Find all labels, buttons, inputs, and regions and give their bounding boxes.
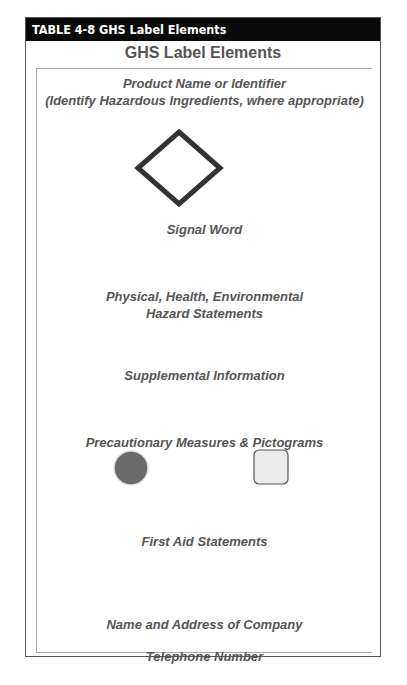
hazard-statements-line1: Physical, Health, Environmental bbox=[37, 288, 372, 305]
precaution-square-icon bbox=[251, 447, 291, 487]
supplemental-info: Supplemental Information bbox=[37, 367, 372, 384]
label-panel: Product Name or Identifier (Identify Haz… bbox=[36, 68, 372, 653]
hazard-statements-line2: Hazard Statements bbox=[37, 305, 372, 322]
company-name-address: Name and Address of Company bbox=[37, 616, 372, 633]
table-frame: TABLE 4-8 GHS Label Elements GHS Label E… bbox=[25, 17, 381, 657]
product-note: (Identify Hazardous Ingredients, where a… bbox=[37, 92, 372, 109]
product-name: Product Name or Identifier bbox=[37, 75, 372, 92]
hazard-diamond-icon bbox=[133, 128, 225, 208]
precautionary-measures: Precautionary Measures & Pictograms bbox=[37, 434, 372, 451]
page-title: GHS Label Elements bbox=[26, 44, 380, 62]
telephone-number: Telephone Number bbox=[37, 648, 372, 665]
table-header: TABLE 4-8 GHS Label Elements bbox=[26, 18, 380, 41]
first-aid: First Aid Statements bbox=[37, 533, 372, 550]
precaution-circle-icon bbox=[111, 448, 151, 488]
signal-word: Signal Word bbox=[37, 221, 372, 238]
